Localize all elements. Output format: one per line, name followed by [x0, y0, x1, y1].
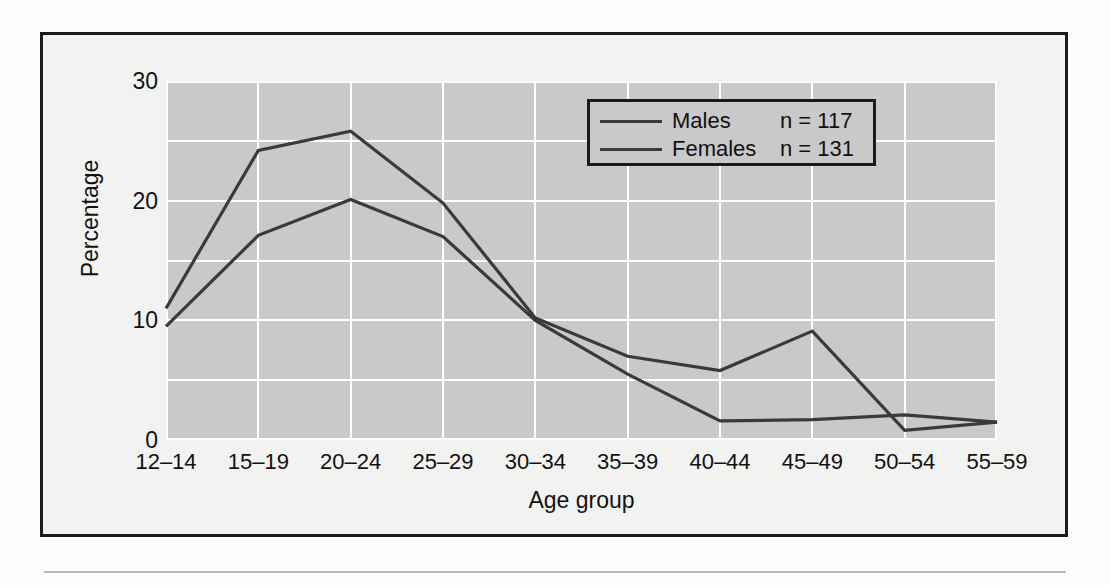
y-axis-label: Percentage	[77, 139, 104, 299]
series-line-females	[166, 199, 997, 422]
x-tick-label: 55–59	[942, 449, 1052, 475]
y-tick-label: 10	[112, 309, 158, 332]
chart-legend: Males n = 117 Females n = 131	[587, 99, 876, 166]
legend-count-males: n = 117	[780, 108, 852, 134]
legend-count-females: n = 131	[780, 136, 854, 162]
legend-line-swatch-females	[600, 148, 662, 151]
legend-label-males: Males	[672, 108, 780, 134]
legend-line-swatch-males	[600, 120, 662, 123]
series-line-males	[166, 131, 997, 430]
legend-item-females: Females n = 131	[600, 135, 863, 163]
figure-frame: 0102030 Percentage 12–1415–1920–2425–293…	[40, 32, 1068, 537]
legend-item-males: Males n = 117	[600, 107, 863, 135]
legend-label-females: Females	[672, 136, 780, 162]
x-axis-ticks: 12–1415–1920–2425–2930–3435–3940–4445–49…	[166, 449, 997, 479]
footer-rule	[44, 571, 1066, 573]
x-axis-label: Age group	[166, 487, 997, 514]
line-chart: 0102030 Percentage 12–1415–1920–2425–293…	[43, 35, 1071, 540]
y-axis-ticks: 0102030	[98, 81, 158, 440]
y-tick-label: 20	[112, 190, 158, 213]
y-tick-label: 30	[112, 70, 158, 93]
